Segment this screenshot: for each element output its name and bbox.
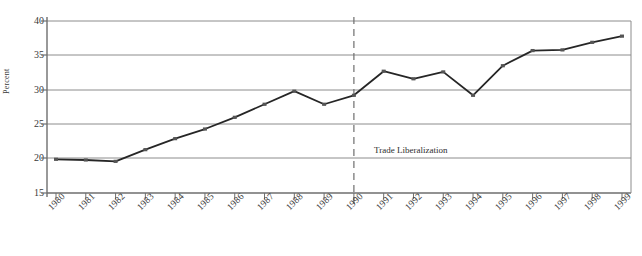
data-point-1993 (441, 70, 445, 73)
trade-liberalization-label: Trade Liberalization (374, 145, 447, 155)
data-point-1980 (54, 158, 58, 161)
data-point-markers (54, 35, 624, 163)
data-point-1992 (411, 77, 415, 80)
chart-container: Percent 40 35 30 25 20 15 (0, 0, 642, 256)
data-point-1991 (382, 70, 386, 73)
data-point-1986 (233, 116, 237, 119)
data-point-1983 (143, 148, 147, 151)
gridlines (47, 21, 631, 158)
data-point-1999 (620, 35, 624, 38)
data-point-1996 (531, 49, 535, 52)
data-point-1998 (590, 41, 594, 44)
data-point-1984 (173, 137, 177, 140)
data-point-1997 (560, 48, 564, 51)
y-axis-ticks (41, 21, 47, 193)
data-point-1988 (292, 90, 296, 93)
data-point-1995 (501, 64, 505, 67)
data-point-1987 (263, 103, 267, 106)
data-point-1985 (203, 127, 207, 130)
plot-area (0, 0, 642, 256)
data-point-1990 (352, 94, 356, 97)
data-point-1989 (322, 103, 326, 106)
data-point-1981 (84, 158, 88, 161)
data-point-1982 (114, 160, 118, 163)
data-point-1994 (471, 94, 475, 97)
